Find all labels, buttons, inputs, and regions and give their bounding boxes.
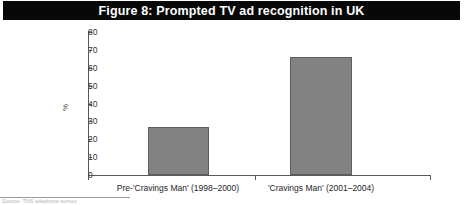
figure-title-bar: Figure 8: Prompted TV ad recognition in … — [3, 1, 460, 20]
bar-series-item — [290, 57, 352, 175]
bar-chart: % 80 70 60 50 40 30 20 10 0 Pre-'Craving… — [0, 20, 465, 205]
x-axis-category-label: 'Cravings Man' (2001–2004) — [268, 183, 374, 193]
y-tick-label: 60 — [88, 63, 94, 73]
x-axis-line — [88, 175, 431, 176]
y-tick-label: 30 — [88, 116, 94, 126]
x-tick-mark — [430, 176, 431, 180]
page-title: Figure 8: Prompted TV ad recognition in … — [98, 4, 364, 18]
bar-series-item — [148, 127, 209, 175]
y-tick-label: 80 — [88, 27, 94, 37]
y-axis-title: % — [61, 104, 70, 111]
y-tick-label: 70 — [88, 45, 94, 55]
y-tick-label: 40 — [88, 99, 94, 109]
y-tick-label: 50 — [88, 81, 94, 91]
footer-source-note: Source: TNS telephone survey — [2, 198, 122, 205]
y-tick-label: 20 — [88, 134, 94, 144]
y-tick-label: 10 — [88, 152, 94, 162]
x-tick-mark — [255, 176, 256, 180]
x-tick-mark — [88, 176, 89, 180]
x-axis-category-label: Pre-'Cravings Man' (1998–2000) — [117, 183, 239, 193]
